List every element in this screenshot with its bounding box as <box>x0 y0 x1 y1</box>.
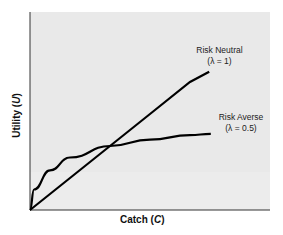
risk-averse-parameter: (λ = 0.5) <box>205 123 277 134</box>
x-axis-label: Catch (C) <box>120 214 164 225</box>
risk-neutral-line <box>30 72 209 210</box>
risk-neutral-label: Risk Neutral <box>182 45 257 56</box>
risk-averse-curve <box>30 134 211 210</box>
risk-neutral-annotation: Risk Neutral (λ = 1) <box>182 45 257 67</box>
risk-neutral-parameter: (λ = 1) <box>182 56 257 67</box>
risk-averse-label: Risk Averse <box>205 112 277 123</box>
y-axis-label: Utility (U) <box>11 86 22 146</box>
risk-averse-annotation: Risk Averse (λ = 0.5) <box>205 112 277 134</box>
